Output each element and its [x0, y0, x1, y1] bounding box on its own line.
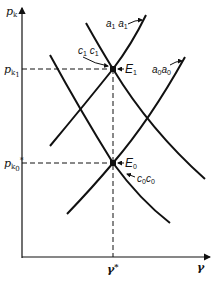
label-c0c0: c0c0	[137, 174, 155, 185]
y-axis-label: pk	[6, 6, 17, 19]
arrow-c0	[127, 174, 135, 177]
tick-pk0-star: pk0*	[4, 157, 24, 173]
equilibrium-diagram	[0, 0, 215, 285]
tick-pk1: pk1	[4, 64, 20, 79]
label-E0: E0	[125, 157, 137, 170]
guide-lines	[22, 69, 113, 257]
label-a1a1: a1 a1	[106, 19, 128, 30]
label-c1c1: c1 c1	[78, 46, 99, 57]
label-E1: E1	[125, 63, 137, 76]
tick-gamma-star: γ*	[107, 262, 118, 275]
curve-a0a0	[67, 57, 185, 214]
curve-c0c0	[50, 55, 170, 223]
point-E1	[110, 66, 116, 72]
arrow-a1	[128, 20, 142, 24]
label-a0a0: a0a0	[152, 65, 171, 76]
arrow-c1	[83, 57, 108, 66]
curve-c1c1	[86, 23, 205, 179]
point-E0	[110, 160, 116, 166]
x-axis-label: γ	[197, 262, 204, 273]
